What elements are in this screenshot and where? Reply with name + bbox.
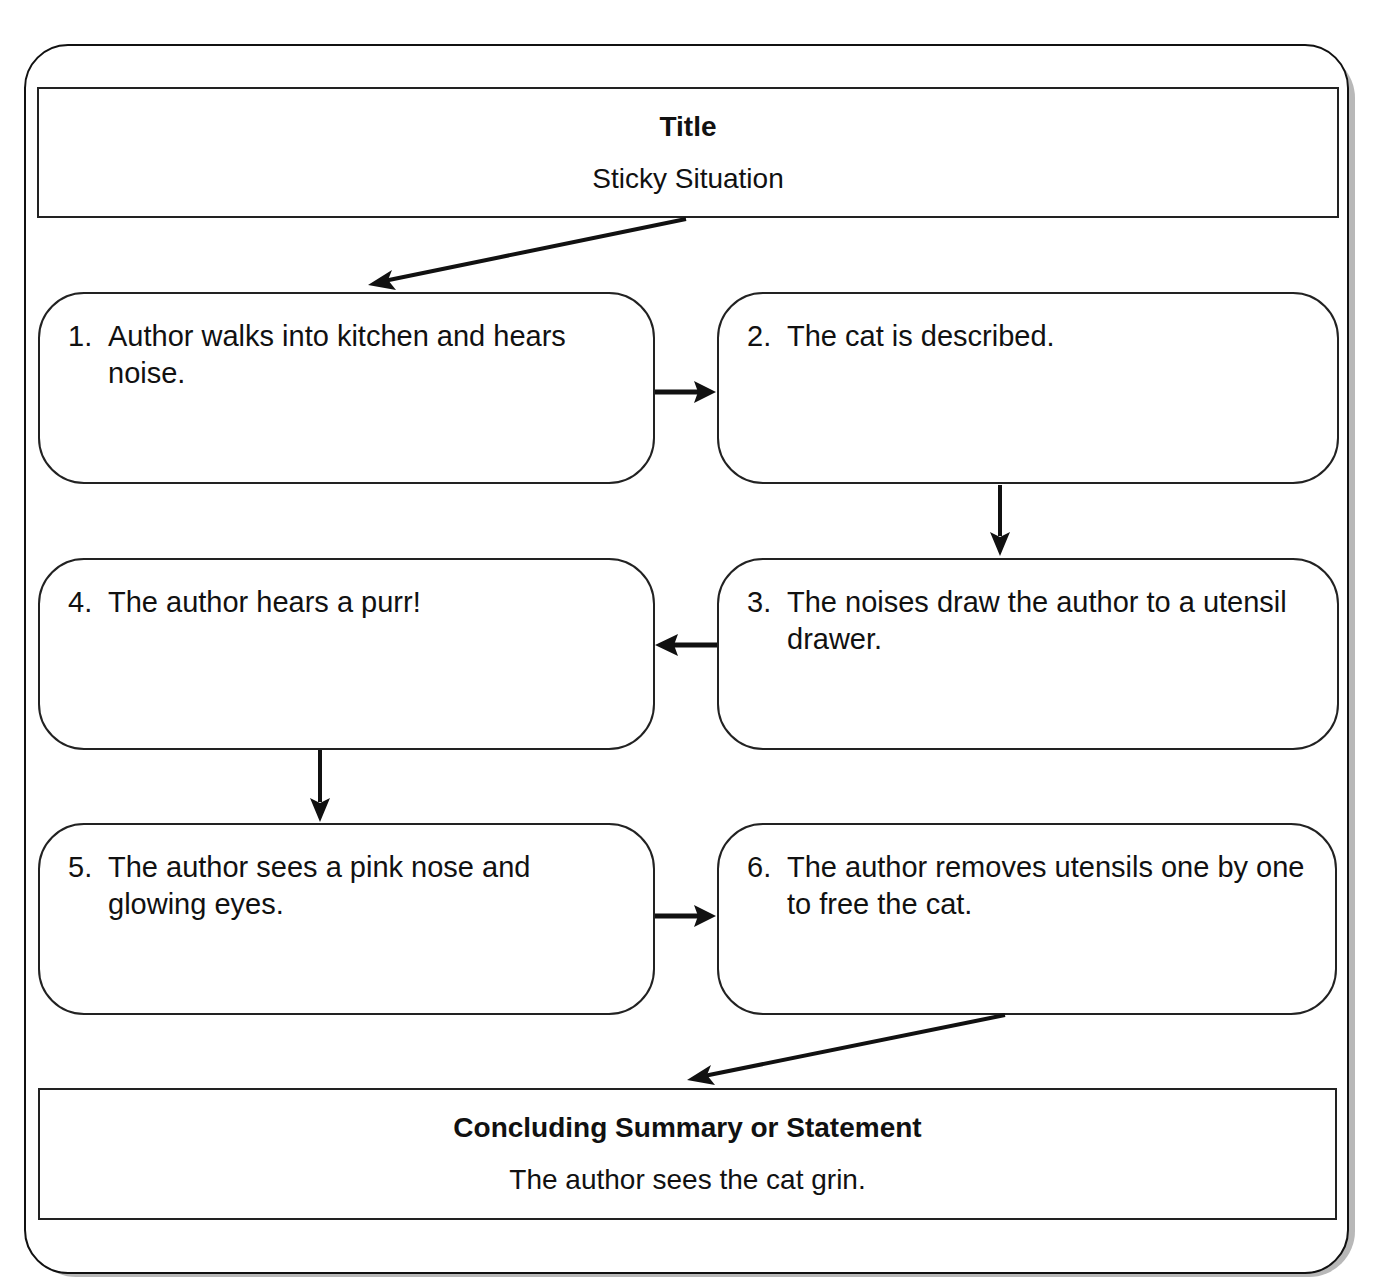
arrow-step1-to-step2 [655,381,716,403]
arrow-step4-to-step5 [310,750,330,822]
arrow-step3-to-step4 [655,634,717,656]
arrow-title-to-step1 [368,219,686,290]
arrow-step5-to-step6 [655,905,716,927]
arrow-step2-to-step3 [990,485,1010,556]
arrow-step6-to-conclusion [687,1015,1005,1085]
